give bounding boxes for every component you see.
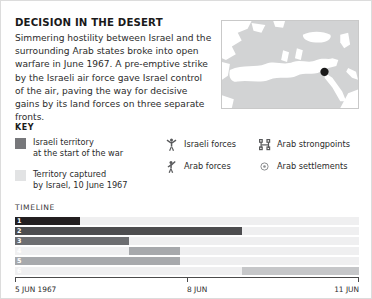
- timeline-row-number-1: 1: [17, 217, 21, 226]
- timeline-axis-labels: 5 JUN 19678 JUN11 JUN: [15, 285, 359, 297]
- key-label-israeli-forces: Israeli forces: [184, 138, 236, 149]
- timeline-row-6: 6: [15, 267, 359, 275]
- intro-paragraph: Simmering hostility between Israel and t…: [15, 32, 213, 125]
- timeline-row-3: 3: [15, 237, 359, 245]
- timeline-row-number-6: 6: [17, 267, 21, 276]
- key-item-arab-settlements: Arab settlements: [258, 160, 368, 173]
- key-column-forces: Israeli forces Arab forces: [165, 138, 260, 182]
- key-label-israeli-territory: Israeli territory at the start of the wa…: [33, 137, 123, 159]
- key-label-arab-forces: Arab forces: [184, 160, 231, 171]
- timeline-axis-label-0: 5 JUN 1967: [15, 285, 56, 294]
- key-section: KEY Israeli territory at the start of th…: [15, 123, 359, 195]
- timeline-tick-0: [15, 277, 16, 282]
- israeli-forces-figure-icon: [165, 138, 178, 151]
- key-item-israeli-territory: Israeli territory at the start of the wa…: [15, 137, 165, 159]
- arab-forces-figure-icon: [165, 160, 178, 173]
- page-title: DECISION IN THE DESERT: [15, 17, 213, 29]
- territory-swatch-light-icon: [15, 170, 26, 181]
- timeline-section: TIMELINE 123456 5 JUN 19678 JUN11 JUN: [15, 203, 359, 297]
- timeline-axis-label-2: 11 JUN: [334, 285, 359, 294]
- key-heading: KEY: [15, 123, 359, 132]
- header-block: DECISION IN THE DESERT Simmering hostili…: [15, 17, 213, 125]
- timeline-row-2: 2: [15, 227, 359, 235]
- key-label-captured-territory: Territory captured by Israel, 10 June 19…: [33, 169, 128, 191]
- timeline-bar-2: [15, 227, 242, 235]
- timeline-bar-3: [15, 237, 129, 245]
- timeline-bar-1: [15, 217, 80, 225]
- key-column-territory: Israeli territory at the start of the wa…: [15, 137, 165, 201]
- timeline-bar-6: [242, 267, 359, 275]
- key-item-captured-territory: Territory captured by Israel, 10 June 19…: [15, 169, 165, 191]
- timeline-row-4: 4: [15, 247, 359, 255]
- timeline-bars: 123456: [15, 217, 359, 275]
- timeline-row-number-5: 5: [17, 257, 21, 266]
- map-location-marker: [320, 68, 328, 76]
- timeline-heading: TIMELINE: [15, 203, 359, 212]
- timeline-row-number-4: 4: [17, 247, 21, 256]
- key-label-arab-settlements: Arab settlements: [277, 160, 348, 171]
- arab-settlement-circle-icon: [258, 160, 271, 173]
- territory-swatch-dark-icon: [15, 138, 26, 149]
- timeline-row-1: 1: [15, 217, 359, 225]
- timeline-axis: [15, 277, 359, 283]
- timeline-tick-2: [358, 277, 359, 282]
- infographic-panel: DECISION IN THE DESERT Simmering hostili…: [0, 0, 372, 299]
- timeline-axis-label-1: 8 JUN: [187, 285, 207, 294]
- arab-strongpoint-fort-icon: [258, 138, 271, 151]
- locator-map: [221, 20, 359, 109]
- key-column-sites: Arab strongpoints Arab settlements: [258, 138, 368, 182]
- timeline-row-number-2: 2: [17, 227, 21, 236]
- timeline-row-number-3: 3: [17, 237, 21, 246]
- timeline-bar-5: [15, 257, 180, 265]
- key-item-arab-strongpoints: Arab strongpoints: [258, 138, 368, 151]
- timeline-row-5: 5: [15, 257, 359, 265]
- timeline-bar-4: [129, 247, 181, 255]
- key-item-arab-forces: Arab forces: [165, 160, 260, 173]
- key-label-arab-strongpoints: Arab strongpoints: [277, 138, 350, 149]
- key-item-israeli-forces: Israeli forces: [165, 138, 260, 151]
- locator-map-graphic: [222, 21, 358, 108]
- timeline-tick-1: [187, 277, 188, 282]
